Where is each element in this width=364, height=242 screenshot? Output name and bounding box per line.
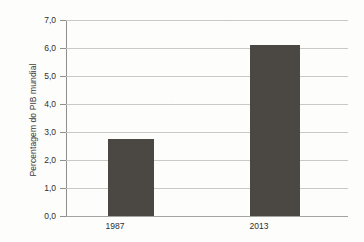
- gridline-4-0: [66, 104, 348, 105]
- y-tick-label-7-0: 7,0: [30, 16, 56, 25]
- bar-1987: [108, 139, 154, 216]
- gridline-5-0: [66, 76, 348, 77]
- y-tick-label-0-0-wrap: 0,0: [30, 212, 56, 221]
- y-tick-label-3-0: 3,0: [30, 128, 56, 137]
- gridline-7-0: [66, 20, 348, 21]
- y-tick-mark-7-0: [60, 20, 66, 21]
- y-tick-mark-3-0: [60, 132, 66, 133]
- plot-area: [66, 20, 348, 216]
- y-tick-label-6-0-wrap: 6,0: [30, 44, 56, 53]
- y-tick-label-4-0-wrap: 4,0: [30, 100, 56, 109]
- gridline-6-0: [66, 48, 348, 49]
- y-tick-label-4-0: 4,0: [30, 100, 56, 109]
- y-tick-mark-1-0: [60, 188, 66, 189]
- y-tick-label-3-0-wrap: 3,0: [30, 128, 56, 137]
- y-tick-mark-5-0: [60, 76, 66, 77]
- y-tick-label-7-0-wrap: 7,0: [30, 16, 56, 25]
- x-tick-label-2013: 2013: [225, 222, 293, 231]
- y-tick-mark-2-0: [60, 160, 66, 161]
- gridline-3-0: [66, 132, 348, 133]
- bar-chart-figure: Percentagem do PIB mundial 7,0 6,0 5,0 4…: [0, 0, 364, 242]
- y-tick-label-1-0-wrap: 1,0: [30, 184, 56, 193]
- y-tick-mark-6-0: [60, 48, 66, 49]
- y-tick-label-2-0-wrap: 2,0: [30, 156, 56, 165]
- y-tick-label-5-0: 5,0: [30, 72, 56, 81]
- bar-2013: [250, 45, 300, 216]
- y-tick-mark-0-0: [60, 216, 66, 217]
- gridline-0-0-baseline: [66, 216, 348, 217]
- y-tick-label-1-0: 1,0: [30, 184, 56, 193]
- y-tick-label-6-0: 6,0: [30, 44, 56, 53]
- x-tick-label-1987: 1987: [85, 222, 145, 231]
- y-axis-title: Percentagem do PIB mundial: [26, 30, 40, 210]
- y-tick-mark-4-0: [60, 104, 66, 105]
- y-tick-label-5-0-wrap: 5,0: [30, 72, 56, 81]
- y-tick-label-0-0: 0,0: [30, 212, 56, 221]
- y-tick-label-2-0: 2,0: [30, 156, 56, 165]
